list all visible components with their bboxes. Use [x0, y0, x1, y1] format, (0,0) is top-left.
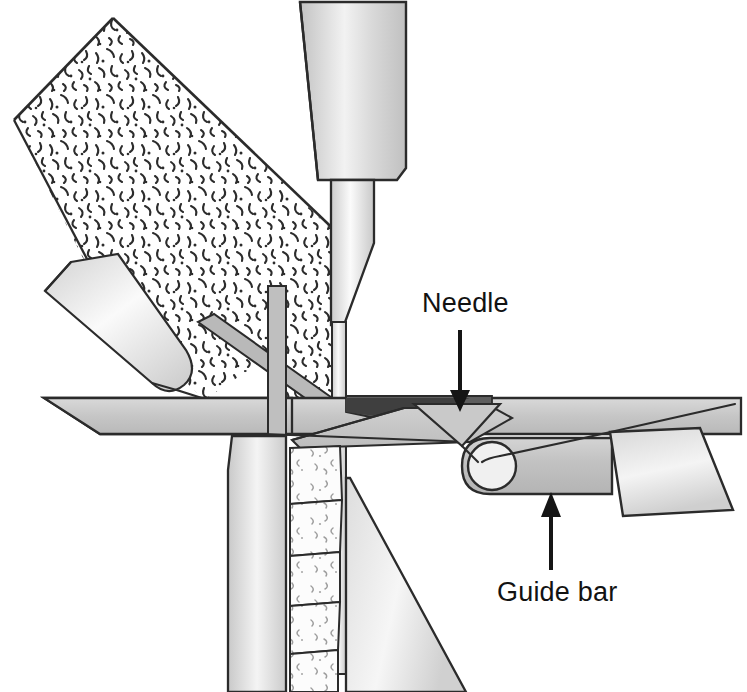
fabric-courses — [290, 446, 342, 692]
diagram-canvas: Needle Guide bar — [0, 0, 747, 692]
needle-label: Needle — [422, 288, 509, 318]
take-down-column — [228, 436, 286, 692]
guide-bar-label: Guide bar — [497, 577, 617, 607]
stripper-plate — [268, 286, 286, 436]
machine-cross-section-diagram: Needle Guide bar — [0, 0, 747, 692]
guide-bar[interactable] — [462, 438, 612, 494]
needle-holder — [300, 2, 406, 180]
guide-bar-eyelet — [468, 442, 516, 490]
